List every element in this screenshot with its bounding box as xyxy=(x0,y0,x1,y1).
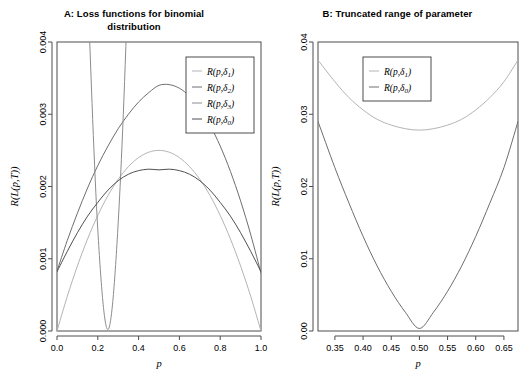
x-axis-label: p xyxy=(155,358,161,369)
x-tick-label-4: 0.8 xyxy=(214,343,227,353)
y-tick-label-2: 0.02 xyxy=(299,178,309,196)
legend: R(p,δ1)R(p,δ0) xyxy=(363,57,431,101)
x-tick-label-5: 1.0 xyxy=(255,343,268,353)
figure-container: A: Loss functions for binomial distribut… xyxy=(0,0,527,387)
legend: R(p,δ1)R(p,δ2)R(p,δ3)R(p,δ0) xyxy=(186,57,254,133)
panel-b: B: Truncated range of parameter 0.350.40… xyxy=(268,0,527,387)
x-axis: 0.00.20.40.60.81.0 xyxy=(51,336,268,353)
y-tick-label-0: 0.000 xyxy=(38,320,48,343)
x-tick-label-4: 0.55 xyxy=(439,343,457,353)
series-line-0 xyxy=(57,150,261,331)
x-tick-label-1: 0.2 xyxy=(92,343,105,353)
x-axis-label: p xyxy=(414,358,420,369)
y-tick-label-4: 0.004 xyxy=(38,31,48,54)
y-tick-label-4: 0.04 xyxy=(299,33,309,51)
y-tick-label-2: 0.002 xyxy=(38,175,48,198)
y-tick-label-1: 0.001 xyxy=(38,247,48,270)
series-line-2 xyxy=(57,0,261,330)
y-axis-label: R(L(p,T)) xyxy=(270,166,282,207)
y-tick-label-1: 0.01 xyxy=(299,250,309,268)
x-tick-label-2: 0.45 xyxy=(382,343,400,353)
series-line-1 xyxy=(318,121,518,328)
x-axis: 0.350.400.450.500.550.600.65 xyxy=(326,336,513,353)
x-tick-label-0: 0.0 xyxy=(51,343,64,353)
x-tick-label-6: 0.65 xyxy=(495,343,513,353)
y-axis: 0.0000.0010.0020.0030.004 xyxy=(38,31,52,343)
x-tick-label-0: 0.35 xyxy=(326,343,344,353)
legend-box xyxy=(363,57,431,101)
y-axis: 0.000.010.020.030.04 xyxy=(299,33,313,340)
panel-a: A: Loss functions for binomial distribut… xyxy=(0,0,268,387)
panel-a-plot: 0.00.20.40.60.81.0p0.0000.0010.0020.0030… xyxy=(0,0,268,387)
x-tick-label-3: 0.50 xyxy=(411,343,429,353)
series-group xyxy=(57,0,261,331)
x-tick-label-3: 0.6 xyxy=(173,343,186,353)
y-tick-label-0: 0.00 xyxy=(299,322,309,340)
y-tick-label-3: 0.003 xyxy=(38,103,48,126)
y-tick-label-3: 0.03 xyxy=(299,105,309,123)
x-tick-label-5: 0.60 xyxy=(467,343,485,353)
y-axis-label: R(L(p,T)) xyxy=(9,166,21,207)
x-tick-label-2: 0.4 xyxy=(132,343,145,353)
series-line-3 xyxy=(57,169,261,272)
panel-b-plot: 0.350.400.450.500.550.600.65p0.000.010.0… xyxy=(268,0,527,387)
x-tick-label-1: 0.40 xyxy=(354,343,372,353)
